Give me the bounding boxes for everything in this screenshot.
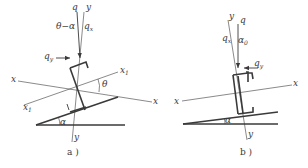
x-axis-b	[182, 85, 292, 101]
label-y-bottom-b: y	[248, 130, 253, 139]
label-q-b: q	[240, 16, 246, 25]
section-web-inner-b	[238, 76, 243, 113]
label-qx-a: qx	[84, 22, 93, 32]
label-alpha-a: α	[60, 118, 66, 127]
label-alpha0-b: α0	[238, 36, 248, 46]
incline-line-a	[36, 97, 118, 125]
label-x-left-a: x	[11, 75, 16, 84]
label-q-a: q	[72, 3, 78, 12]
section-web-outer-b	[233, 75, 238, 114]
caption-a: a )	[67, 148, 79, 157]
q-force-a	[77, 12, 80, 58]
label-theta-minus-alpha-a: θ−α	[56, 22, 75, 31]
label-qx-b: qx	[222, 34, 231, 44]
diagram-canvas	[0, 0, 308, 168]
section-web-a	[70, 68, 85, 110]
label-x-left-b: x	[174, 97, 179, 106]
panel-b-drawing	[182, 20, 292, 140]
label-y-top-b: y	[229, 12, 234, 21]
label-x-right-a: x	[153, 97, 158, 106]
label-theta-a: θ	[102, 80, 107, 89]
x-axis-a	[18, 81, 152, 102]
label-alpha-b: α	[225, 116, 231, 125]
label-x-right-b: x	[293, 79, 298, 88]
label-y-bottom-a: y	[74, 133, 79, 142]
label-qy-a: qy	[44, 52, 53, 62]
label-y-top-a: y	[86, 3, 91, 12]
label-x1-right-a: x1	[120, 66, 129, 76]
theta-arc-a	[98, 79, 100, 92]
label-x1-left-a: x1	[23, 103, 32, 113]
section-bottom-flange-b	[238, 107, 253, 114]
section-top-flange-b	[233, 73, 253, 79]
section-lip-a	[67, 104, 69, 110]
caption-b: b )	[240, 148, 252, 157]
label-qy-b: qy	[254, 59, 263, 69]
